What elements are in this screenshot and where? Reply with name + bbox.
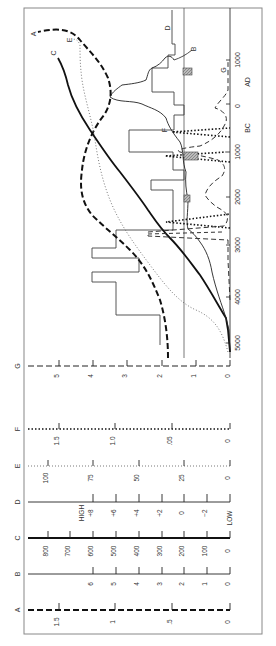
svg-text:100: 100 [42,472,49,483]
svg-text:D: D [14,499,21,504]
svg-text:6: 6 [87,582,94,586]
year-2000: 2000 [234,189,241,205]
svg-text:1.5: 1.5 [53,617,60,626]
svg-text:+6: +6 [110,509,117,517]
series-e-dotted [72,39,228,352]
svg-text:0: 0 [224,549,231,553]
svg-text:700: 700 [64,545,71,556]
label-g: G [220,67,227,72]
svg-text:1.0: 1.0 [109,436,116,445]
svg-text:400: 400 [133,545,140,556]
axis-a: A 1.5 1 .5 0 [14,603,231,627]
svg-text:600: 600 [87,545,94,556]
axis-g-label: G [14,363,21,368]
svg-text:5: 5 [53,374,60,378]
shaded-bar-1000bc [184,152,198,160]
svg-text:.5: .5 [166,619,173,625]
axis-b: B 6 5 4 3 2 1 0 [14,567,231,586]
svg-text:50: 50 [133,474,140,482]
svg-text:−2: −2 [201,509,208,517]
svg-text:A: A [14,607,21,612]
svg-text:300: 300 [156,545,163,556]
series-g-dashed-inner [148,232,222,234]
svg-text:100: 100 [201,545,208,556]
svg-text:3: 3 [121,374,128,378]
svg-text:4: 4 [133,582,140,586]
d-low-label: LOW [226,510,233,526]
svg-text:0: 0 [224,439,231,443]
svg-text:1.5: 1.5 [53,436,60,445]
era-bc: BC [244,123,251,133]
svg-text:3: 3 [156,582,163,586]
svg-text:4: 4 [87,374,94,378]
shaded-bar-ad [183,68,192,75]
svg-text:0: 0 [224,476,231,480]
axis-panel: G 5 4 3 2 1 0 F 1.5 1.0 .05 0 [14,360,233,627]
year-0: 0 [234,104,241,108]
axis-e: E 100 75 50 25 0 [14,460,231,483]
svg-text:0: 0 [224,582,231,586]
rotated-multi-axis-chart: 1000 AD 0 BC 1000 2000 3000 4000 5000 [0,0,276,646]
svg-text:1: 1 [109,620,116,624]
axis-d: D HIGH +8 +6 +4 +2 0 −2 LOW [14,494,233,525]
svg-text:5: 5 [110,582,117,586]
svg-text:2: 2 [156,374,163,378]
svg-text:1: 1 [201,582,208,586]
svg-text:75: 75 [87,474,94,482]
label-a: A [30,31,37,36]
svg-text:B: B [14,571,21,576]
svg-text:F: F [14,427,21,431]
svg-text:.05: .05 [166,436,173,445]
svg-text:25: 25 [178,474,185,482]
time-ticks [226,60,230,343]
series-f-dotted [165,128,230,228]
series-b-thin [110,56,230,352]
plot-area: 1000 AD 0 BC 1000 2000 3000 4000 5000 [30,8,251,358]
axis-f: F 1.5 1.0 .05 0 [14,423,231,446]
year-labels: 1000 AD 0 BC 1000 2000 3000 4000 5000 [234,52,251,351]
year-3000: 3000 [234,237,241,253]
svg-text:C: C [14,535,21,540]
svg-text:1: 1 [190,374,197,378]
series-g-dashed [148,62,230,300]
axis-c: C 800 700 600 500 400 300 200 100 0 [14,531,231,556]
label-f: F [161,128,168,132]
label-c: C [50,50,57,55]
svg-text:+4: +4 [133,509,140,517]
label-d: D [164,25,171,30]
svg-text:0: 0 [178,511,185,515]
year-1000ad: 1000 [234,52,241,68]
d-high-label: HIGH [78,505,85,522]
era-ad: AD [244,77,251,87]
curve-labels: A C E D B F G [30,25,227,132]
svg-text:0: 0 [224,374,231,378]
svg-text:800: 800 [42,545,49,556]
label-e: E [66,37,73,42]
svg-text:0: 0 [224,620,231,624]
svg-text:+2: +2 [156,509,163,517]
year-4000: 4000 [234,289,241,305]
svg-text:E: E [14,463,21,468]
svg-text:+8: +8 [87,509,94,517]
label-b: B [190,46,197,51]
shaded-bar-2000bc [184,195,190,202]
axis-g: G 5 4 3 2 1 0 [14,360,231,378]
year-5000: 5000 [234,335,241,351]
series-a-heavy-dashed [38,30,168,358]
year-1000bc: 1000 [234,144,241,160]
svg-text:2: 2 [178,582,185,586]
svg-text:500: 500 [110,545,117,556]
svg-text:200: 200 [178,545,185,556]
series-d-step [92,10,184,345]
series-c-thick [58,58,230,352]
